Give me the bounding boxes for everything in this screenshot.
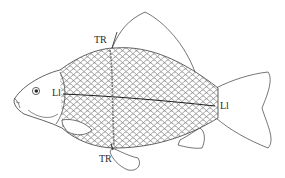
fish-diagram: TR Ll Ll TR xyxy=(0,0,285,178)
ll-left-label: Ll xyxy=(52,88,61,98)
fish-illustration xyxy=(0,0,285,178)
pelvic-fin xyxy=(110,148,140,170)
tr-top-label: TR xyxy=(94,35,107,45)
ll-right-label: Ll xyxy=(220,101,229,111)
tr-bottom-label: TR xyxy=(99,154,112,164)
